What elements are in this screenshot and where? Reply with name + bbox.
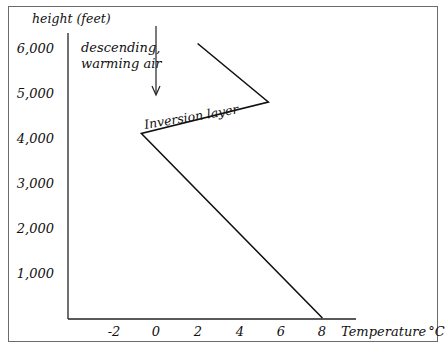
x-axis-title: Temperature°C (341, 324, 445, 339)
y-tick-label: 1,000 (17, 266, 54, 281)
x-tick-label: 6 (277, 324, 285, 339)
inversion-layer-label: Inversion layer (142, 101, 240, 132)
x-tick-labels: -2 0 2 4 6 8 (108, 324, 326, 339)
x-tick-label: 0 (152, 324, 160, 339)
x-tick-label: 4 (235, 324, 244, 339)
x-axis-title-text: Temperature (341, 324, 426, 339)
x-tick-label: 2 (193, 324, 202, 339)
y-axis-title: height (feet) (32, 11, 111, 26)
annotation-warming-air: warming air (81, 56, 162, 71)
y-tick-label: 2,000 (16, 221, 54, 236)
x-tick-label: -2 (108, 324, 121, 339)
y-tick-label: 4,000 (16, 131, 54, 146)
annotation-descending: descending, (81, 40, 160, 55)
temperature-profile-line (141, 44, 322, 319)
temperature-height-chart: height (feet) 6,000 5,000 4,000 3,000 2,… (0, 0, 447, 351)
y-tick-label: 3,000 (17, 176, 54, 191)
y-tick-label: 6,000 (17, 41, 54, 56)
x-tick-label: 8 (318, 324, 326, 339)
x-axis-title-unit: °C (428, 324, 445, 339)
y-tick-labels: 6,000 5,000 4,000 3,000 2,000 1,000 (16, 41, 54, 281)
y-tick-label: 5,000 (17, 86, 54, 101)
